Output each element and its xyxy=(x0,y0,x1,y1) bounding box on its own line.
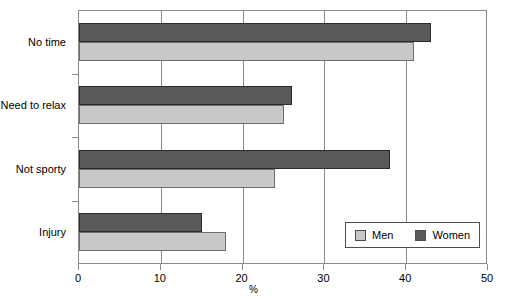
bar-chart: No timeNeed to relaxNot sportyInjury 010… xyxy=(0,0,507,301)
x-axis-tick xyxy=(487,264,488,270)
legend-entry-men: Men xyxy=(355,229,393,241)
legend-label-women: Women xyxy=(432,229,470,241)
bar-men xyxy=(79,169,275,188)
x-axis-tick-label: 40 xyxy=(399,272,411,284)
bar-men xyxy=(79,42,414,61)
x-axis-tick-label: 20 xyxy=(235,272,247,284)
x-axis-tick xyxy=(78,264,79,270)
y-axis-tick xyxy=(72,201,79,202)
bar-group xyxy=(79,23,488,63)
x-axis-tick xyxy=(242,264,243,270)
y-axis-label: Need to relax xyxy=(1,99,66,111)
bar-men xyxy=(79,232,226,251)
bar-men xyxy=(79,105,284,124)
x-axis-tick-label: 30 xyxy=(317,272,329,284)
y-axis-tick xyxy=(72,137,79,138)
legend-swatch-women-icon xyxy=(415,230,426,241)
bar-group xyxy=(79,86,488,126)
legend-entry-women: Women xyxy=(415,229,470,241)
x-axis-tick xyxy=(405,264,406,270)
bar-women xyxy=(79,23,431,42)
bar-women xyxy=(79,150,390,169)
x-axis-tick-label: 0 xyxy=(75,272,81,284)
y-axis-tick xyxy=(72,74,79,75)
y-axis-label: Injury xyxy=(39,226,66,238)
bar-group xyxy=(79,150,488,190)
x-axis-tick xyxy=(323,264,324,270)
bar-women xyxy=(79,86,292,105)
y-axis-label: Not sporty xyxy=(16,163,66,175)
y-axis-category-labels: No timeNeed to relaxNot sportyInjury xyxy=(0,10,72,264)
legend-swatch-men-icon xyxy=(355,230,366,241)
x-axis-tick-label: 10 xyxy=(154,272,166,284)
y-axis-label: No time xyxy=(28,36,66,48)
chart-legend: Men Women xyxy=(345,222,480,248)
bar-women xyxy=(79,213,202,232)
legend-label-men: Men xyxy=(372,229,393,241)
x-axis-tick-label: 50 xyxy=(481,272,493,284)
x-axis-tick xyxy=(160,264,161,270)
x-axis-title: % xyxy=(0,284,507,295)
